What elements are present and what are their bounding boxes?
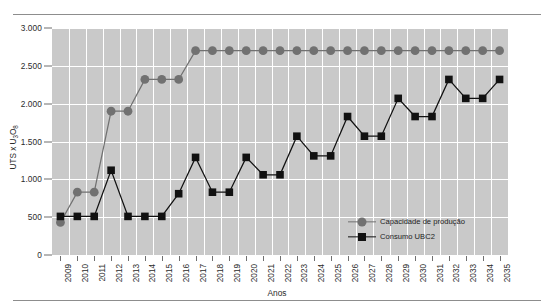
chart-figure: 05001.0001.5002.0002.5003.000 UTS x U3O8… xyxy=(0,0,554,308)
legend-item-consumo: Consumo UBC2 xyxy=(348,229,498,244)
data-point-consumo xyxy=(394,95,402,103)
data-point-capacidade xyxy=(140,75,149,84)
data-point-consumo xyxy=(361,132,369,140)
data-point-consumo xyxy=(141,213,149,221)
data-point-capacidade xyxy=(360,46,369,55)
data-point-consumo xyxy=(445,76,453,84)
data-point-capacidade xyxy=(495,46,504,55)
figure-bottom-divider xyxy=(13,300,541,301)
data-point-capacidade xyxy=(208,46,217,55)
data-point-capacidade xyxy=(73,188,82,197)
data-point-consumo xyxy=(428,113,436,121)
data-point-consumo xyxy=(479,95,487,103)
data-point-consumo xyxy=(310,152,318,160)
chart-legend: Capacidade de produção Consumo UBC2 xyxy=(348,214,498,244)
data-point-consumo xyxy=(496,76,504,84)
data-point-consumo xyxy=(90,213,98,221)
data-point-capacidade xyxy=(428,46,437,55)
data-point-capacidade xyxy=(225,46,234,55)
data-point-capacidade xyxy=(90,188,99,197)
data-point-consumo xyxy=(192,154,200,162)
data-point-capacidade xyxy=(309,46,318,55)
data-point-capacidade xyxy=(174,75,183,84)
legend-item-capacidade: Capacidade de produção xyxy=(348,214,498,229)
data-point-capacidade xyxy=(191,46,200,55)
data-point-consumo xyxy=(259,171,267,179)
data-point-capacidade xyxy=(259,46,268,55)
data-point-capacidade xyxy=(478,46,487,55)
data-point-consumo xyxy=(175,190,183,198)
data-point-capacidade xyxy=(124,107,133,116)
data-point-consumo xyxy=(124,213,132,221)
series-line-capacidade xyxy=(60,51,499,223)
data-point-capacidade xyxy=(411,46,420,55)
data-point-consumo xyxy=(226,188,234,196)
data-point-consumo xyxy=(107,166,115,174)
data-point-consumo xyxy=(344,113,352,121)
data-point-capacidade xyxy=(292,46,301,55)
data-point-capacidade xyxy=(394,46,403,55)
legend-label-consumo: Consumo UBC2 xyxy=(380,232,435,241)
legend-label-capacidade: Capacidade de produção xyxy=(380,217,465,226)
data-point-consumo xyxy=(276,171,284,179)
data-point-consumo xyxy=(462,95,470,103)
data-point-consumo xyxy=(209,188,217,196)
data-point-consumo xyxy=(293,132,301,140)
data-series-layer xyxy=(0,0,554,308)
data-point-consumo xyxy=(411,113,419,121)
data-point-capacidade xyxy=(377,46,386,55)
data-point-consumo xyxy=(158,213,166,221)
data-point-capacidade xyxy=(242,46,251,55)
data-point-capacidade xyxy=(343,46,352,55)
data-point-capacidade xyxy=(107,107,116,116)
data-point-consumo xyxy=(74,213,82,221)
data-point-capacidade xyxy=(461,46,470,55)
data-point-capacidade xyxy=(276,46,285,55)
data-point-consumo xyxy=(378,132,386,140)
data-point-consumo xyxy=(327,152,335,160)
legend-key-square xyxy=(348,231,376,243)
data-point-capacidade xyxy=(326,46,335,55)
legend-key-circle xyxy=(348,216,376,228)
data-point-consumo xyxy=(242,154,250,162)
data-point-consumo xyxy=(57,213,65,221)
data-point-capacidade xyxy=(444,46,453,55)
series-line-consumo xyxy=(60,79,499,216)
data-point-capacidade xyxy=(157,75,166,84)
